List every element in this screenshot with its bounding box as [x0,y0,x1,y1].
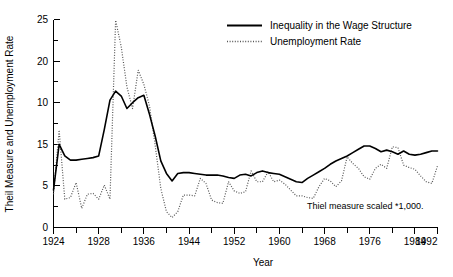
y-tick-label-25: 25 [37,14,49,25]
series-unemployment-rate [54,20,438,217]
y-tick-label-5: 5 [42,180,48,191]
chart-axes [54,20,438,228]
x-tick-label-1976: 1976 [359,236,382,247]
x-axis-title: Year [253,257,274,268]
y-axis-ticks [54,20,60,228]
y-axis-labels: 0 5 10 15 20 25 [37,14,49,233]
y-tick-label-15-mid: 15 [37,139,49,150]
y-tick-label-0: 0 [42,222,48,233]
y-tick-label-20: 20 [37,56,49,67]
x-axis-labels: 1924 1928 1936 1944 1952 1960 1968 1976 … [42,236,438,247]
chart-annotation-note: Thiel measure scaled *1,000. [307,201,424,211]
x-tick-label-1936: 1936 [133,236,156,247]
x-tick-label-1924: 1924 [42,236,65,247]
y-axis-title: Theil Measure and Unemployment Rate [4,35,15,212]
x-tick-label-1968: 1968 [313,236,336,247]
x-tick-label-1960: 1960 [268,236,291,247]
x-tick-label-1944: 1944 [178,236,201,247]
legend-label-inequality: Inequality in the Wage Structure [270,20,412,31]
legend-label-unemployment: Unemployment Rate [270,36,362,47]
x-axis-ticks [54,228,438,234]
line-chart: 0 5 10 15 20 25 [0,0,453,277]
x-tick-label-1992: 1992 [415,236,438,247]
chart-figure: 0 5 10 15 20 25 [0,0,453,277]
x-tick-label-1928: 1928 [88,236,111,247]
y-tick-label-10: 10 [37,97,49,108]
chart-legend: Inequality in the Wage Structure Unemplo… [227,20,412,47]
x-tick-label-1952: 1952 [223,236,246,247]
